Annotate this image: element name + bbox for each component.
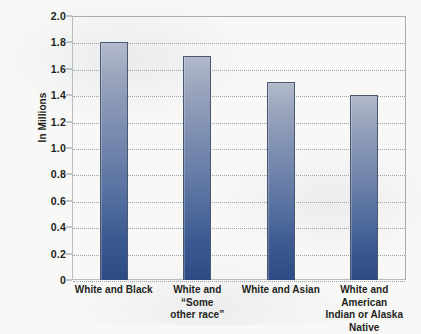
y-axis-tick-label: 0.8 — [22, 168, 66, 180]
x-axis-tick-label-line: White and American — [323, 284, 407, 309]
y-axis-tick-label: 0.2 — [22, 248, 66, 260]
y-axis-tick-label: 0.4 — [22, 221, 66, 233]
bar — [350, 95, 378, 280]
y-axis-tick-label: 2.0 — [22, 10, 66, 22]
y-axis-tick-label: 0 — [22, 274, 66, 286]
gridline — [73, 281, 405, 282]
bar — [267, 82, 295, 280]
x-axis-tick-label-line: White and Asian — [239, 284, 323, 297]
y-axis-tick-label: 1.2 — [22, 116, 66, 128]
y-axis-tick-label: 1.4 — [22, 89, 66, 101]
x-axis-tick-label: White and “Someother race” — [156, 284, 240, 322]
bar — [100, 42, 128, 280]
y-axis-tick-label: 1.0 — [22, 142, 66, 154]
x-axis-tick-labels: White and BlackWhite and “Someother race… — [72, 284, 406, 325]
y-axis-tick-label: 0.6 — [22, 195, 66, 207]
x-axis-tick-label: White and Black — [72, 284, 156, 297]
x-axis-tick-label-line: Indian or Alaska — [323, 309, 407, 322]
y-axis-tick-labels: 2.01.81.61.41.21.00.80.60.40.20 — [14, 16, 66, 280]
x-axis-tick-label-line: White and “Some — [156, 284, 240, 309]
x-axis-tick-label: White and AmericanIndian or AlaskaNative — [323, 284, 407, 334]
bars-layer — [72, 16, 406, 280]
x-axis-tick-label-line: White and Black — [72, 284, 156, 297]
x-axis-tick-label: White and Asian — [239, 284, 323, 297]
y-axis-tick-label: 1.8 — [22, 36, 66, 48]
x-axis-tick-label-line: other race” — [156, 309, 240, 322]
y-axis-tick-label: 1.6 — [22, 63, 66, 75]
bar — [183, 56, 211, 280]
x-axis-tick-label-line: Native — [323, 322, 407, 334]
